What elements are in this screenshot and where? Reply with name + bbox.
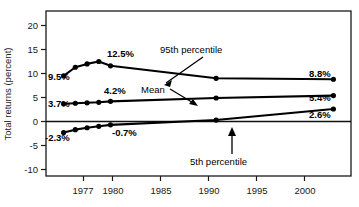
series-1 [61, 93, 336, 106]
p95-peak-value: 12.5% [107, 48, 134, 59]
plot-frame [46, 11, 351, 176]
p95-series-label: 95th percentile [160, 44, 222, 55]
chart-svg: 20 15 10 5 0 -5 -10 Total returns (perce… [0, 0, 359, 207]
data-point [73, 101, 78, 106]
data-point [84, 61, 89, 66]
chart-figure: 20 15 10 5 0 -5 -10 Total returns (perce… [0, 0, 359, 207]
p5-mid-value: -0.7% [112, 127, 137, 138]
y-axis-title: Total returns (percent) [2, 48, 13, 141]
data-point [84, 100, 89, 105]
p5-start-value: -2.3% [45, 132, 70, 143]
mean-leader [170, 89, 198, 106]
x-tick-label-1990: 1990 [198, 185, 219, 196]
y-tick-label-20: 20 [27, 20, 38, 31]
data-point [108, 99, 113, 104]
series-line-2 [64, 109, 334, 133]
y-tick-label-minus10: -10 [24, 164, 38, 175]
mean-series-label: Mean [141, 84, 165, 95]
y-axis-ticks [41, 26, 46, 170]
data-point [96, 100, 101, 105]
x-tick-label-1977: 1977 [72, 185, 93, 196]
x-tick-label-1980: 1980 [102, 185, 123, 196]
data-point [214, 95, 219, 100]
x-tick-label-1995: 1995 [246, 185, 267, 196]
y-tick-label-minus5: -5 [30, 140, 38, 151]
p5-leader [228, 127, 236, 154]
series-2 [61, 106, 336, 135]
data-point [214, 76, 219, 81]
data-point [96, 59, 101, 64]
data-point [73, 127, 78, 132]
mean-end-value: 5.4% [309, 92, 331, 103]
y-tick-label-0: 0 [33, 116, 38, 127]
series-0 [61, 59, 336, 82]
p5-series-label: 5th percentile [190, 156, 247, 167]
data-point [331, 77, 336, 82]
data-point [73, 65, 78, 70]
p95-start-value: 9.5% [48, 71, 70, 82]
x-tick-label-1985: 1985 [150, 185, 171, 196]
data-point [84, 125, 89, 130]
mean-start-value: 3.7% [48, 98, 70, 109]
series-layer [61, 59, 336, 135]
series-line-0 [64, 62, 334, 80]
data-point [96, 124, 101, 129]
mean-mid-value: 4.2% [104, 85, 126, 96]
x-tick-label-2000: 2000 [294, 185, 315, 196]
y-tick-label-5: 5 [33, 92, 38, 103]
x-axis-ticks [84, 176, 305, 181]
y-tick-label-15: 15 [27, 44, 38, 55]
data-point [108, 63, 113, 68]
p5-end-value: 2.6% [309, 109, 331, 120]
data-point [331, 106, 336, 111]
p95-end-value: 8.8% [309, 68, 331, 79]
y-tick-label-10: 10 [27, 68, 38, 79]
data-point [214, 117, 219, 122]
data-point [331, 93, 336, 98]
series-line-1 [64, 96, 334, 104]
